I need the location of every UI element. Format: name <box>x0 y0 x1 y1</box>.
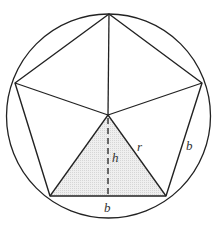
diagram-canvas: h r b b <box>0 0 219 231</box>
radius-label: r <box>137 139 143 154</box>
side-label-right: b <box>186 138 193 153</box>
height-label: h <box>112 150 119 165</box>
base-label-bottom: b <box>104 200 111 215</box>
pentagon-area-diagram: h r b b <box>0 0 219 231</box>
